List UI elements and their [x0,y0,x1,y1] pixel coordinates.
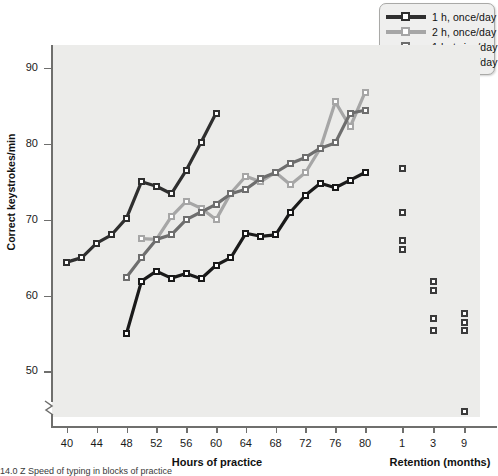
retention-point-marker [399,165,406,172]
figure-root: 1 h, once/day 2 h, once/day 1 h, twice/d… [0,0,498,476]
x-tick [246,426,248,433]
legend-item-0[interactable]: 1 h, once/day [386,9,488,24]
data-point-marker [287,181,294,188]
data-point-marker [213,110,220,117]
data-point-marker [108,231,115,238]
retention-tick [402,426,404,433]
data-point-marker [183,198,190,205]
y-tick [44,220,51,222]
data-point-marker [332,139,339,146]
x-tick-label: 80 [348,437,382,449]
data-point-marker [153,183,160,190]
data-point-marker [168,190,175,197]
retention-point-marker [399,246,406,253]
data-point-marker [272,231,279,238]
y-tick-label: 60 [0,289,38,301]
y-tick [44,371,51,373]
data-point-marker [123,215,130,222]
data-point-marker [153,268,160,275]
data-point-marker [213,201,220,208]
x-tick [97,426,99,433]
y-axis-title: Correct keystrokes/min [5,112,17,272]
data-point-marker [287,160,294,167]
data-point-marker [347,177,354,184]
data-point-marker [123,274,130,281]
data-point-marker [198,139,205,146]
data-point-marker [242,186,249,193]
x-tick [305,426,307,433]
data-point-marker [93,240,100,247]
figure-caption: 14.0 Z Speed of typing in blocks of prac… [0,466,498,476]
data-point-marker [347,110,354,117]
data-point-marker [287,209,294,216]
data-point-marker [123,330,130,337]
retention-point-marker [399,237,406,244]
y-axis-line [51,45,53,402]
data-point-marker [332,98,339,105]
legend-item-1[interactable]: 2 h, once/day [386,24,488,39]
retention-point-marker [461,319,468,326]
x-tick [156,426,158,433]
x-tick [67,426,69,433]
retention-tick-label: 1 [385,437,419,449]
legend-label-1: 2 h, once/day [432,26,496,38]
retention-tick-label: 9 [447,437,481,449]
y-tick [44,296,51,298]
data-point-marker [183,216,190,223]
data-point-marker [153,236,160,243]
retention-point-marker [430,278,437,285]
data-point-marker [227,254,234,261]
legend-label-0: 1 h, once/day [432,11,496,23]
data-point-marker [242,230,249,237]
retention-point-marker [430,327,437,334]
data-point-marker [317,145,324,152]
y-tick [44,68,51,70]
x-tick [276,426,278,433]
data-point-marker [213,216,220,223]
retention-point-marker [461,408,468,415]
data-point-marker [213,262,220,269]
retention-tick [433,426,435,433]
data-point-marker [227,190,234,197]
retention-point-marker [461,327,468,334]
data-point-marker [302,169,309,176]
data-point-marker [302,192,309,199]
data-point-marker [257,233,264,240]
legend-marker-1 [401,27,410,36]
data-point-marker [317,180,324,187]
data-point-marker [198,275,205,282]
data-point-marker [168,213,175,220]
retention-tick [464,426,466,433]
x-tick [216,426,218,433]
x-axis-line [51,426,497,428]
data-point-marker [168,275,175,282]
x-tick [127,426,129,433]
data-point-marker [183,167,190,174]
data-point-marker [302,154,309,161]
x-tick [186,426,188,433]
data-point-marker [332,184,339,191]
data-point-marker [183,270,190,277]
axis-break-icon [44,399,60,417]
data-point-marker [242,173,249,180]
retention-tick-label: 3 [416,437,450,449]
data-point-marker [362,169,369,176]
data-point-marker [168,231,175,238]
x-tick [335,426,337,433]
legend-swatch-icon-0 [386,12,426,21]
data-point-marker [362,107,369,114]
legend-marker-0 [401,12,410,21]
retention-point-marker [461,310,468,317]
plot-area [52,45,480,417]
y-tick-label: 90 [0,61,38,73]
retention-point-marker [430,315,437,322]
retention-point-marker [399,209,406,216]
data-point-marker [138,178,145,185]
data-point-marker [138,278,145,285]
data-point-marker [198,209,205,216]
data-point-marker [138,235,145,242]
data-point-marker [272,169,279,176]
data-point-marker [362,89,369,96]
data-point-marker [78,254,85,261]
data-point-marker [138,254,145,261]
